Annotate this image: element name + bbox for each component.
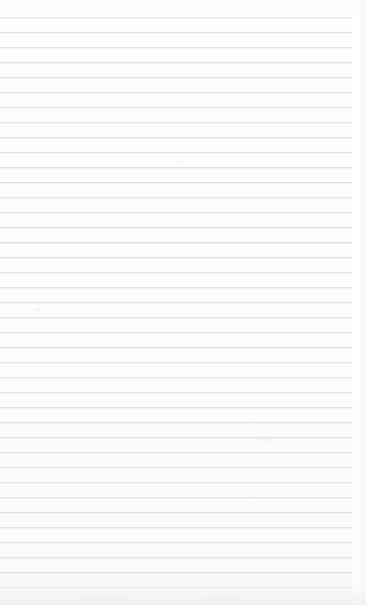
rule-line xyxy=(0,542,352,543)
rule-line xyxy=(0,512,352,513)
scanned-page xyxy=(0,0,366,605)
rule-line xyxy=(0,197,352,198)
rule-line xyxy=(0,32,352,33)
rule-line xyxy=(0,182,352,183)
rule-line xyxy=(0,407,352,408)
rule-line xyxy=(0,152,352,153)
rule-line xyxy=(0,302,352,303)
rule-line xyxy=(0,212,352,213)
rule-line xyxy=(0,77,352,78)
rule-line xyxy=(0,17,352,18)
rule-line xyxy=(0,362,352,363)
rule-line xyxy=(0,332,352,333)
scan-speck xyxy=(178,161,180,163)
scan-smudge xyxy=(258,437,272,441)
rule-line xyxy=(0,392,352,393)
rule-line xyxy=(0,482,352,483)
rule-line xyxy=(0,497,352,498)
rule-line xyxy=(0,47,352,48)
rule-line xyxy=(0,167,352,168)
rule-line xyxy=(0,422,352,423)
rule-line xyxy=(0,437,352,438)
rule-line xyxy=(0,557,352,558)
ruling-lines-layer xyxy=(0,0,366,605)
rule-line xyxy=(0,272,352,273)
rule-line xyxy=(0,347,352,348)
rule-line xyxy=(0,467,352,468)
rule-line xyxy=(0,317,352,318)
rule-line xyxy=(0,62,352,63)
rule-line xyxy=(0,107,352,108)
rule-line xyxy=(0,287,352,288)
rule-line xyxy=(0,137,352,138)
rule-line xyxy=(0,242,352,243)
rule-line xyxy=(0,452,352,453)
rule-line xyxy=(0,572,352,573)
bottom-edge-shading xyxy=(0,579,366,605)
rule-line xyxy=(0,92,352,93)
rule-line xyxy=(0,122,352,123)
top-edge-shading xyxy=(0,0,366,14)
scan-speck xyxy=(300,520,302,522)
scan-speck xyxy=(36,308,39,311)
rule-line xyxy=(0,257,352,258)
rule-line xyxy=(0,377,352,378)
rule-line xyxy=(0,227,352,228)
right-edge-shading xyxy=(356,0,366,605)
scan-speck xyxy=(224,185,226,187)
rule-line xyxy=(0,527,352,528)
